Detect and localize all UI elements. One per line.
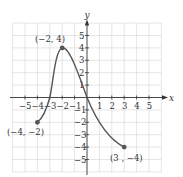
x-axis-arrow-icon <box>162 95 168 99</box>
y-axis-arrow-icon <box>85 20 89 26</box>
y-tick-label: 4 <box>79 43 84 53</box>
y-tick-label: −2 <box>74 117 87 127</box>
endpoint-left <box>35 120 40 125</box>
x-axis-label: x <box>169 93 174 103</box>
y-tick-label: −1 <box>74 105 87 115</box>
y-axis-label: y <box>84 10 91 20</box>
right-endpoint-annotation: (3 , −4) <box>110 153 143 163</box>
peak-annotation: (−2, 4) <box>35 34 65 44</box>
peak-point <box>60 46 65 51</box>
function-graph: x y −5 −4 −3 −2 −1 1 2 3 4 5 <box>0 0 183 177</box>
x-tick-label: 4 <box>134 101 139 111</box>
y-tick-label: −5 <box>74 155 87 165</box>
left-endpoint-annotation: (−4, −2) <box>7 127 44 137</box>
y-tick-label: −3 <box>74 130 87 140</box>
y-tick-label: −4 <box>74 142 87 152</box>
x-tick-label: 2 <box>110 101 115 111</box>
x-tick-label: −5 <box>19 101 32 111</box>
x-tick-label: −2 <box>57 101 70 111</box>
y-tick-label: 5 <box>79 31 84 41</box>
x-tick-label: 1 <box>97 101 102 111</box>
endpoint-right <box>122 145 127 150</box>
x-tick-label: −4 <box>32 101 45 111</box>
x-tick-label: 5 <box>147 101 152 111</box>
x-tick-label: 3 <box>122 101 127 111</box>
y-tick-label: 3 <box>79 55 84 65</box>
